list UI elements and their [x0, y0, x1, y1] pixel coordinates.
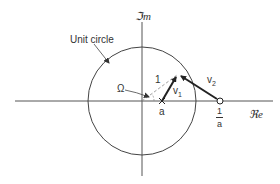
- inverse-a-denominator: a: [217, 119, 222, 129]
- v2-subscript: 2: [212, 80, 216, 87]
- point-a-label: a: [159, 107, 165, 117]
- inverse-a-numerator: 1: [217, 106, 222, 116]
- omega-label: Ω: [117, 84, 124, 94]
- inverse-a-label: 1 a: [216, 106, 223, 129]
- omega-pointer-arrow: [125, 90, 149, 97]
- v2-label: v2: [207, 75, 216, 87]
- imaginary-axis-label: ℑm: [135, 11, 151, 22]
- inverse-a-marker: [217, 98, 223, 104]
- complex-plane-diagram: [0, 0, 280, 184]
- radius-label: 1: [155, 75, 161, 85]
- v1-label: v1: [173, 86, 182, 98]
- omega-angle-arc: [152, 94, 154, 101]
- unit-circle-label: Unit circle: [70, 35, 114, 45]
- v1-subscript: 1: [178, 91, 182, 98]
- fraction-bar: [216, 117, 223, 118]
- real-axis-label: ℜe: [249, 109, 263, 120]
- unit-circle-pointer-arrow: [94, 44, 109, 63]
